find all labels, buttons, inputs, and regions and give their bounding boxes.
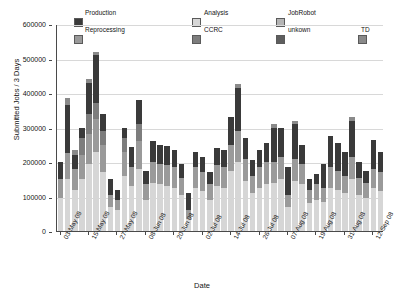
x-tick-mark: [372, 232, 373, 235]
bar-segment-reprocessing: [371, 169, 377, 188]
bar[interactable]: [250, 160, 256, 231]
y-tick-label: 100000: [23, 194, 46, 202]
bar[interactable]: [314, 174, 320, 231]
bar-segment-analysis: [228, 171, 234, 231]
bar-segment-production: [115, 190, 121, 200]
bar-segment-production: [271, 128, 277, 163]
bar[interactable]: [257, 150, 263, 231]
bar[interactable]: [285, 167, 291, 231]
bar[interactable]: [363, 171, 369, 231]
bar[interactable]: [200, 157, 206, 231]
bar[interactable]: [143, 171, 149, 231]
bar-segment-reprocessing: [356, 178, 362, 195]
bar-segment-reprocessing: [335, 171, 341, 190]
bar-segment-production: [299, 145, 305, 164]
y-tick-label: 200000: [23, 159, 46, 167]
bar-segment-production: [328, 136, 334, 167]
bar[interactable]: [108, 179, 114, 231]
bar-segment-reprocessing: [257, 167, 263, 188]
bar-segment-production: [285, 167, 291, 195]
chart-container: ProductionReprocessingAnalysisCCRCJobRob…: [0, 0, 404, 304]
bar-segment-ccrc: [79, 138, 85, 155]
bar-segment-reprocessing: [243, 159, 249, 181]
bar-segment-production: [342, 152, 348, 176]
bar-segment-td: [292, 121, 298, 124]
bar-segment-reprocessing: [179, 178, 185, 195]
bar[interactable]: [307, 179, 313, 231]
bar-segment-reprocessing: [278, 157, 284, 179]
y-tick-mark: [49, 163, 52, 164]
x-tick-mark: [287, 232, 288, 235]
x-tick-mark: [344, 232, 345, 235]
bar[interactable]: [342, 152, 348, 231]
y-tick-label: 600000: [23, 21, 46, 29]
x-tick-mark: [173, 232, 174, 235]
bar-segment-analysis: [79, 179, 85, 231]
bar-segment-reprocessing: [207, 184, 213, 200]
bar[interactable]: [264, 143, 270, 231]
bar-segment-production: [193, 152, 199, 168]
bar-segment-td: [72, 150, 78, 155]
bar-series: [57, 25, 383, 231]
bar-segment-analysis: [58, 198, 64, 231]
bar-segment-reprocessing: [321, 188, 327, 202]
bar[interactable]: [349, 117, 355, 231]
bar-segment-reprocessing: [307, 190, 313, 204]
bar-segment-production: [164, 146, 170, 165]
bar[interactable]: [122, 128, 128, 232]
bar-segment-reprocessing: [129, 167, 135, 186]
bar-segment-td: [235, 84, 241, 87]
bar-segment-reprocessing: [349, 157, 355, 179]
bar[interactable]: [150, 141, 156, 231]
bar-segment-reprocessing: [122, 152, 128, 176]
bar-segment-reprocessing: [342, 176, 348, 193]
bar-segment-reprocessing: [328, 167, 334, 188]
bar[interactable]: [193, 152, 199, 231]
bar-segment-reprocessing: [228, 145, 234, 171]
bar[interactable]: [115, 190, 121, 231]
bar-segment-ccrc: [86, 114, 92, 135]
bar-segment-reprocessing: [115, 200, 121, 210]
bar[interactable]: [172, 150, 178, 231]
bar-segment-reprocessing: [193, 167, 199, 188]
bar-segment-reprocessing: [214, 165, 220, 186]
bar-segment-production: [93, 55, 99, 103]
y-tick-label: 400000: [23, 90, 46, 98]
bar-segment-production: [278, 128, 284, 157]
bar-segment-analysis: [278, 179, 284, 231]
bar-segment-analysis: [115, 210, 121, 231]
y-axis: Submitted Jobs / 3 Days 0100000200000300…: [0, 0, 52, 260]
bar-segment-analysis: [335, 190, 341, 231]
bar[interactable]: [86, 79, 92, 231]
x-axis-title: Date: [0, 281, 404, 290]
x-tick-mark: [88, 232, 89, 235]
bar-segment-reprocessing: [314, 184, 320, 200]
bar-segment-reprocessing: [221, 167, 227, 188]
bar[interactable]: [235, 84, 241, 231]
bar[interactable]: [292, 121, 298, 231]
bar-segment-production: [86, 83, 92, 114]
bar-segment-analysis: [200, 191, 206, 231]
bar-segment-production: [314, 174, 320, 184]
bar-segment-analysis: [221, 188, 227, 231]
bar-segment-production: [292, 124, 298, 159]
bar-segment-analysis: [257, 188, 263, 231]
bar-segment-production: [72, 155, 78, 169]
bar-segment-td: [86, 79, 92, 82]
bar-segment-reprocessing: [299, 164, 305, 185]
bar[interactable]: [371, 140, 377, 231]
bar[interactable]: [65, 98, 71, 231]
bar-segment-production: [79, 128, 85, 138]
bar-segment-reprocessing: [285, 195, 291, 207]
legend-label: Production: [85, 9, 116, 17]
x-tick-mark: [116, 232, 117, 235]
bar[interactable]: [228, 117, 234, 231]
bar-segment-reprocessing: [100, 145, 106, 173]
bar-segment-reprocessing: [164, 165, 170, 186]
bar-segment-production: [157, 145, 163, 164]
bar-segment-production: [363, 171, 369, 183]
bar[interactable]: [93, 52, 99, 231]
bar-segment-reprocessing: [157, 164, 163, 185]
bar[interactable]: [58, 162, 64, 231]
bar-segment-analysis: [86, 164, 92, 231]
